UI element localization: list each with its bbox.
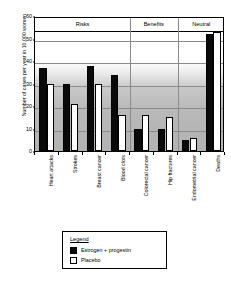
bar xyxy=(142,115,149,151)
legend-entry: Placebo xyxy=(70,255,166,265)
x-category-label: Breast cancer xyxy=(96,155,102,215)
bar xyxy=(47,84,54,152)
bar xyxy=(190,138,197,152)
section-label: Neutral xyxy=(178,21,225,27)
legend-swatch xyxy=(70,257,77,264)
y-tick-label: 10 xyxy=(26,127,32,132)
bar xyxy=(166,117,173,151)
y-tick-label: 40 xyxy=(26,59,32,64)
section-label: Benefits xyxy=(130,21,178,27)
gridline xyxy=(35,63,223,64)
bar xyxy=(95,84,102,152)
x-category-label: Heart attacks xyxy=(48,155,54,215)
legend-box: Legend Estrogen + progestinPlacebo xyxy=(62,231,167,269)
legend-title: Legend xyxy=(70,236,166,243)
x-category-label: Deaths xyxy=(215,155,221,215)
x-tick-mark xyxy=(224,152,225,155)
y-axis-tick-labels: 0102030405060 xyxy=(19,17,33,152)
bar xyxy=(213,32,220,151)
y-tick-label: 0 xyxy=(29,149,32,154)
bar xyxy=(39,68,46,151)
x-category-label: Hip fractures xyxy=(167,155,173,215)
x-category-label: Strokes xyxy=(72,155,78,215)
bar xyxy=(111,75,118,152)
legend-entry: Estrogen + progestin xyxy=(70,245,166,255)
y-tick-label: 20 xyxy=(26,104,32,109)
section-divider xyxy=(130,18,131,151)
y-tick-label: 60 xyxy=(26,14,32,19)
bar xyxy=(158,129,165,152)
bar xyxy=(63,84,70,152)
bar xyxy=(134,129,141,152)
x-category-label: Blood clots xyxy=(120,155,126,215)
bar xyxy=(118,115,125,151)
x-category-label: Endometrial cancer xyxy=(191,155,197,215)
x-axis-category-labels: Heart attacksStrokesBreast cancerBlood c… xyxy=(34,155,224,217)
section-divider xyxy=(178,18,179,151)
plot-area: RisksBenefitsNeutral xyxy=(34,17,224,152)
legend-swatch xyxy=(70,247,77,254)
y-tick-label: 50 xyxy=(26,37,32,42)
y-tick-label: 30 xyxy=(26,82,32,87)
bar xyxy=(87,66,94,152)
legend-label: Estrogen + progestin xyxy=(81,247,131,253)
bar xyxy=(182,140,189,151)
legend-label: Placebo xyxy=(81,257,100,263)
bar xyxy=(71,104,78,151)
section-label: Risks xyxy=(35,21,130,27)
legend-entries: Estrogen + progestinPlacebo xyxy=(70,245,166,265)
bar xyxy=(206,34,213,151)
x-category-label: Colorectal cancer xyxy=(143,155,149,215)
bar-chart: Number of cases per year in 10,000 women… xyxy=(0,0,231,287)
gridline xyxy=(35,41,223,42)
